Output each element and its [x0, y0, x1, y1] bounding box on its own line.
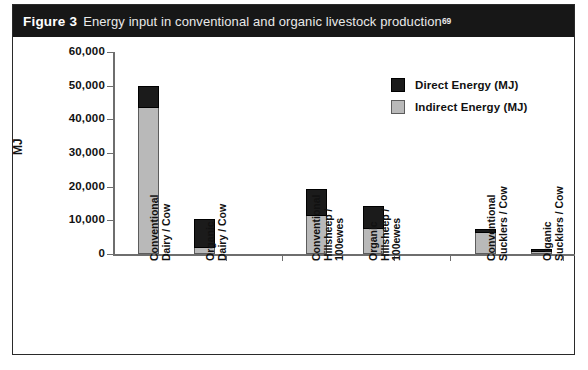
legend-label-direct-energy: Direct Energy (MJ): [415, 79, 518, 91]
x-axis-category-label: Organic Hillsheep / 100ewes: [368, 141, 403, 261]
y-axis-tick-label: 10,000: [37, 213, 105, 225]
y-axis-tick: [107, 153, 114, 154]
x-axis-category-label: Organic Dairy / Cow: [205, 141, 228, 261]
figure-frame: Figure 3 Energy input in conventional an…: [12, 4, 575, 355]
figure-caption-bar: Figure 3 Energy input in conventional an…: [13, 5, 574, 37]
x-axis-category-label: Conventional Hillsheep / 100ewes: [311, 141, 346, 261]
y-axis-tick-label: 0: [37, 247, 105, 259]
chart-legend: Direct Energy (MJ) Indirect Energy (MJ): [391, 77, 528, 121]
x-axis-category-label: Conventional Dairy / Cow: [149, 141, 172, 261]
figure-caption-superscript: 69: [442, 16, 451, 26]
y-axis-tick-label: 50,000: [37, 79, 105, 91]
y-axis-tick: [107, 119, 114, 120]
legend-label-indirect-energy: Indirect Energy (MJ): [415, 101, 528, 113]
legend-swatch-indirect-energy: [391, 100, 405, 114]
x-axis-category-label: Conventional Sucklers / Cow: [486, 141, 509, 261]
y-axis-tick: [107, 52, 114, 53]
y-axis-tick-label: 20,000: [37, 180, 105, 192]
y-axis-tick: [107, 254, 114, 255]
figure-caption-text: Energy input in conventional and organic…: [83, 14, 442, 29]
y-axis-tick: [107, 86, 114, 87]
legend-item-direct: Direct Energy (MJ): [391, 77, 528, 93]
y-axis-tick-label: 60,000: [37, 45, 105, 57]
y-axis-tick: [107, 187, 114, 188]
chart-plot-area: MJ 010,00020,00030,00040,00050,00060,000…: [13, 37, 574, 354]
x-axis-category-label: Organic Sucklers / Cow: [542, 141, 565, 261]
legend-swatch-direct-energy: [391, 78, 405, 92]
y-axis-tick-label: 30,000: [37, 146, 105, 158]
bar-segment-direct-energy: [138, 86, 159, 108]
x-axis-tick: [282, 255, 283, 261]
y-axis-tick-label: 40,000: [37, 112, 105, 124]
y-axis-title: MJ: [11, 138, 25, 155]
figure-number: Figure 3: [23, 14, 77, 29]
legend-item-indirect: Indirect Energy (MJ): [391, 99, 528, 115]
x-axis-tick: [450, 255, 451, 261]
y-axis-tick: [107, 220, 114, 221]
